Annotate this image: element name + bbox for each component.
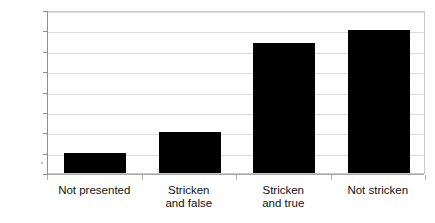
y-tick-mark-80: [43, 11, 48, 12]
y-tick-mark-60: [43, 52, 48, 53]
x-axis-category-label: Not presented: [47, 184, 142, 197]
x-axis-category-label: Not stricken: [331, 184, 426, 197]
y-tick-mark-40: [43, 93, 48, 94]
scan-artifact-speck: [41, 162, 43, 164]
x-tick-mark: [331, 175, 332, 180]
y-tick-mark-10: [43, 154, 48, 155]
x-tick-mark: [425, 175, 426, 180]
bar-not-stricken: [348, 30, 410, 173]
x-tick-mark: [142, 175, 143, 180]
x-tick-mark: [47, 175, 48, 180]
y-tick-mark-30: [43, 113, 48, 114]
y-tick-mark-70: [43, 31, 48, 32]
bar-not-presented: [64, 153, 126, 173]
x-tick-mark: [236, 175, 237, 180]
x-axis-category-label: Stricken and true: [236, 184, 331, 210]
y-tick-mark-20: [43, 133, 48, 134]
gridline-80: [48, 12, 424, 13]
bar-stricken-and-false: [159, 132, 221, 173]
plot-area: [47, 11, 425, 174]
x-axis-category-label: Stricken and false: [142, 184, 237, 210]
y-tick-mark-50: [43, 72, 48, 73]
bar-chart: 01020304050607080Not presentedStricken a…: [0, 0, 435, 223]
bar-stricken-and-true: [253, 43, 315, 173]
